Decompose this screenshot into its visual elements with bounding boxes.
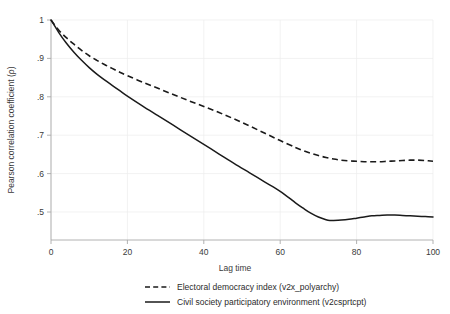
x-tick-label: 0 [49, 247, 54, 257]
y-tick-label: .7 [37, 130, 44, 140]
legend-label-civil-society-participatory-environment: Civil society participatory environment … [177, 297, 367, 307]
chart-figure: .5.6.7.8.91 020406080100 Pearson correla… [0, 0, 450, 314]
x-tick-label: 20 [123, 247, 133, 257]
y-axis-title: Pearson correlation coefficient (ρ) [6, 66, 16, 193]
x-tick-label: 80 [352, 247, 362, 257]
y-tick-label: .5 [37, 207, 44, 217]
x-tick-label: 40 [199, 247, 209, 257]
y-tick-label: 1 [39, 15, 44, 25]
y-tick-label: .9 [37, 53, 44, 63]
legend-entry-civil-society-participatory-environment: Civil society participatory environment … [145, 297, 367, 307]
legend-label-electoral-democracy-index: Electoral democracy index (v2x_polyarchy… [177, 282, 339, 292]
y-tick-label: .8 [37, 92, 44, 102]
x-axis-title: Lag time [219, 263, 252, 273]
x-tick-label: 60 [275, 247, 285, 257]
x-tick-label: 100 [426, 247, 440, 257]
y-tick-label: .6 [37, 169, 44, 179]
correlation-decay-line-chart: .5.6.7.8.91 020406080100 Pearson correla… [0, 0, 450, 314]
